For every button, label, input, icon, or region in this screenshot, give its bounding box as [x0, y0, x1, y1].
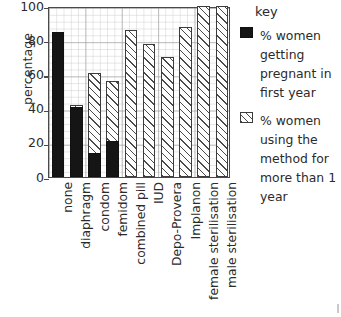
bar-segment-using-method	[179, 27, 192, 177]
y-axis-tick-label: 20	[14, 137, 44, 150]
y-axis-tick-label: 100	[14, 1, 44, 14]
y-axis-tick-label: 80	[14, 35, 44, 48]
x-axis-tick-label: none	[62, 182, 74, 213]
bar	[88, 6, 101, 177]
x-axis-tick-label: femidom	[117, 182, 129, 237]
y-axis-tick-mark	[44, 111, 49, 112]
bar-segment-using-method	[216, 6, 229, 177]
y-axis-tick-mark	[44, 42, 49, 43]
legend-item-using-method: % women using the method for more than 1…	[240, 110, 341, 205]
bar-segment-using-method	[143, 44, 156, 177]
bar	[106, 6, 119, 177]
bar	[197, 6, 210, 177]
legend: key % women getting pregnant in first ye…	[240, 4, 341, 214]
bar	[161, 6, 174, 177]
y-axis-tick-label: 40	[14, 103, 44, 116]
y-axis-tick-labels: 020406080100	[12, 0, 44, 190]
bar-segment-pregnant	[88, 153, 101, 177]
page-corner-mark	[337, 304, 339, 313]
legend-title: key	[255, 4, 341, 19]
x-axis-tick-label: combined pill	[135, 182, 147, 265]
bar-segment-pregnant	[106, 141, 119, 177]
x-axis-tick-label: female sterilisation	[208, 182, 220, 300]
x-axis-tick-label: Implanon	[190, 182, 202, 239]
bar-segment-pregnant	[70, 107, 83, 177]
bar	[52, 6, 65, 177]
y-axis-tick-label: 0	[14, 172, 44, 185]
bar-segment-using-method	[125, 30, 138, 177]
x-axis-tick-label: IUD	[153, 182, 165, 204]
legend-item-label: % women getting pregnant in first year	[260, 28, 332, 100]
legend-item-pregnant: % women getting pregnant in first year	[240, 25, 341, 101]
bar	[143, 6, 156, 177]
x-axis-tick-label: Depo-Provera	[171, 182, 183, 266]
bar-segment-using-method	[197, 6, 210, 177]
solid-black-swatch-icon	[240, 27, 253, 38]
y-axis-tick-mark	[44, 145, 49, 146]
x-axis-tick-labels: nonediaphragmcondomfemidomcombined pillI…	[48, 178, 230, 313]
plot-area	[48, 7, 230, 178]
bar-segment-using-method	[161, 57, 174, 177]
y-axis-tick-label: 60	[14, 69, 44, 82]
x-axis-tick-label: diaphragm	[80, 182, 92, 249]
hatched-swatch-icon	[240, 112, 253, 123]
bar	[70, 6, 83, 177]
bar-group	[49, 8, 229, 177]
legend-item-label: % women using the method for more than 1…	[260, 113, 336, 204]
bar-chart: percentage 020406080100 nonediaphragmcon…	[0, 0, 341, 317]
y-axis-tick-mark	[44, 8, 49, 9]
x-axis-tick-label: condom	[99, 182, 111, 231]
bar	[125, 6, 138, 177]
y-axis-tick-mark	[44, 76, 49, 77]
x-axis-tick-label: male sterilisation	[226, 182, 238, 288]
bar	[179, 6, 192, 177]
bar	[216, 6, 229, 177]
bar-segment-pregnant	[52, 32, 65, 177]
